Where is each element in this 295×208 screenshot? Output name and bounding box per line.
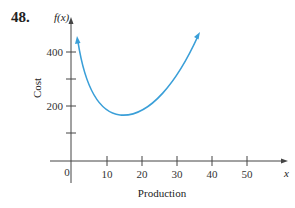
curve-arrow-right-icon bbox=[194, 32, 200, 40]
x-tick-label: 50 bbox=[242, 168, 254, 180]
y-tick-label: 400 bbox=[47, 46, 64, 58]
x-tick-label: 20 bbox=[137, 168, 149, 180]
x-axis-arrow-icon bbox=[281, 159, 288, 164]
cost-curve bbox=[78, 36, 198, 115]
y-tick-label: 200 bbox=[47, 100, 64, 112]
x-tick-label: 10 bbox=[102, 168, 114, 180]
x-tick-label: 40 bbox=[207, 168, 219, 180]
curve-arrow-left-icon bbox=[75, 36, 81, 44]
y-axis-name: f(x) bbox=[54, 11, 70, 24]
x-tick-label: 30 bbox=[172, 168, 184, 180]
y-axis-title: Cost bbox=[31, 78, 43, 98]
x-tick-label: 0 bbox=[64, 166, 70, 178]
cost-function-chart: 400 200 0 10 20 30 40 50 f(x) x Cost Pro… bbox=[0, 0, 295, 208]
x-axis-title: Production bbox=[138, 187, 187, 199]
x-axis-name: x bbox=[283, 167, 289, 179]
